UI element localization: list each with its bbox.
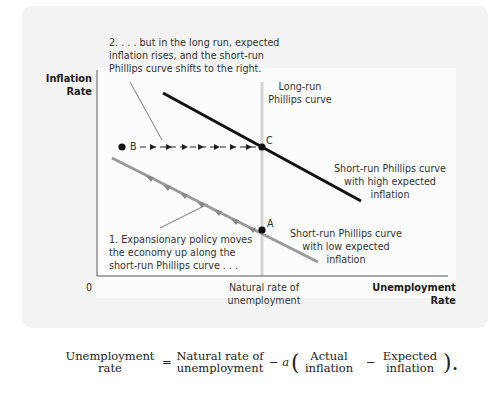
x-axis-label: Unemployment Rate [360, 281, 456, 307]
long-run-curve-label: Long-run Phillips curve [265, 80, 335, 106]
origin-label: 0 [86, 281, 92, 294]
annotation-1: 1. Expansionary policy moves the economy… [109, 233, 252, 272]
equation-open-paren: ( [291, 350, 300, 376]
high-curve-label: Short-run Phillips curve with high expec… [326, 162, 454, 201]
point-a-label: A [267, 217, 274, 230]
equation-minus: − [366, 355, 376, 369]
point-a [258, 226, 265, 233]
equation-term-natural: Natural rate of unemployment [174, 350, 266, 374]
point-b [118, 143, 125, 150]
equation-minus-a: − a [269, 355, 289, 369]
low-curve-label: Short-run Phillips curve with low expect… [282, 227, 410, 266]
phillips-equation: Unemployment rate = Natural rate of unem… [0, 350, 488, 390]
equation-term-actual: Actual inflation [300, 350, 358, 374]
natural-rate-label: Natural rate of unemployment [214, 281, 314, 307]
y-axis-label: Inflation Rate [40, 72, 92, 98]
point-c-label: C [266, 134, 273, 147]
point-b-label: B [130, 140, 137, 153]
equation-lhs: Unemployment rate [62, 350, 158, 374]
equation-term-expected: Expected inflation [380, 350, 440, 374]
annotation-2-leader [130, 82, 162, 140]
annotation-1-leader [160, 204, 208, 228]
equation-equals: = [162, 355, 172, 369]
annotation-2: 2. . . . but in the long run, expected i… [109, 36, 279, 75]
point-c [258, 143, 265, 150]
equation-close-paren: ). [443, 350, 459, 376]
